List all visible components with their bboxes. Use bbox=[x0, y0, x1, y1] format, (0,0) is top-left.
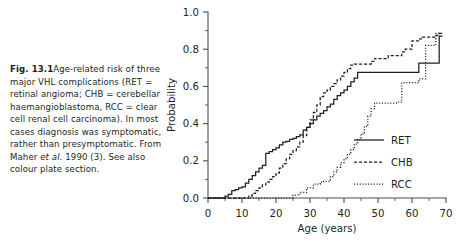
y-tick-label: 0.2 bbox=[183, 155, 199, 166]
legend-label-chb: CHB bbox=[391, 157, 413, 168]
figure-caption: Fig. 13.1Age-related risk of three major… bbox=[10, 63, 170, 176]
y-tick-label: 0.6 bbox=[183, 81, 199, 92]
x-tick-label: 60 bbox=[406, 208, 419, 219]
caption-italic-etal: et al. bbox=[40, 152, 62, 162]
curve-chb bbox=[208, 33, 443, 198]
x-tick-label: 40 bbox=[338, 208, 351, 219]
x-tick-label: 70 bbox=[440, 208, 453, 219]
y-axis-ticks bbox=[203, 12, 208, 198]
chart-legend: RETCHBRCC bbox=[354, 135, 413, 190]
figure-container: Fig. 13.1Age-related risk of three major… bbox=[0, 0, 461, 251]
x-tick-label: 0 bbox=[205, 208, 211, 219]
x-tick-label: 10 bbox=[236, 208, 249, 219]
y-axis-tick-labels: 0.00.20.40.60.81.0 bbox=[183, 7, 199, 204]
curve-rcc bbox=[208, 33, 443, 198]
caption-text-part-1: Age-related risk of three major VHL comp… bbox=[10, 64, 161, 162]
x-axis-title: Age (years) bbox=[298, 223, 357, 234]
y-tick-label: 0.0 bbox=[183, 193, 199, 204]
x-tick-label: 30 bbox=[304, 208, 317, 219]
x-tick-label: 20 bbox=[270, 208, 283, 219]
y-tick-label: 0.4 bbox=[183, 118, 199, 129]
legend-label-rcc: RCC bbox=[391, 179, 412, 190]
x-axis-tick-labels: 010203040506070 bbox=[205, 208, 453, 219]
y-tick-label: 1.0 bbox=[183, 7, 199, 18]
x-axis-ticks bbox=[208, 198, 446, 203]
chart-area: 0.00.20.40.60.81.0 010203040506070 Age (… bbox=[160, 0, 461, 251]
y-axis-title: Probability bbox=[166, 78, 177, 132]
curve-ret bbox=[208, 36, 443, 198]
figure-number: Fig. 13.1 bbox=[10, 64, 53, 74]
chart-curves bbox=[208, 33, 443, 198]
y-tick-label: 0.8 bbox=[183, 44, 199, 55]
chart-axes bbox=[208, 12, 446, 198]
x-tick-label: 50 bbox=[372, 208, 385, 219]
legend-label-ret: RET bbox=[391, 135, 412, 146]
